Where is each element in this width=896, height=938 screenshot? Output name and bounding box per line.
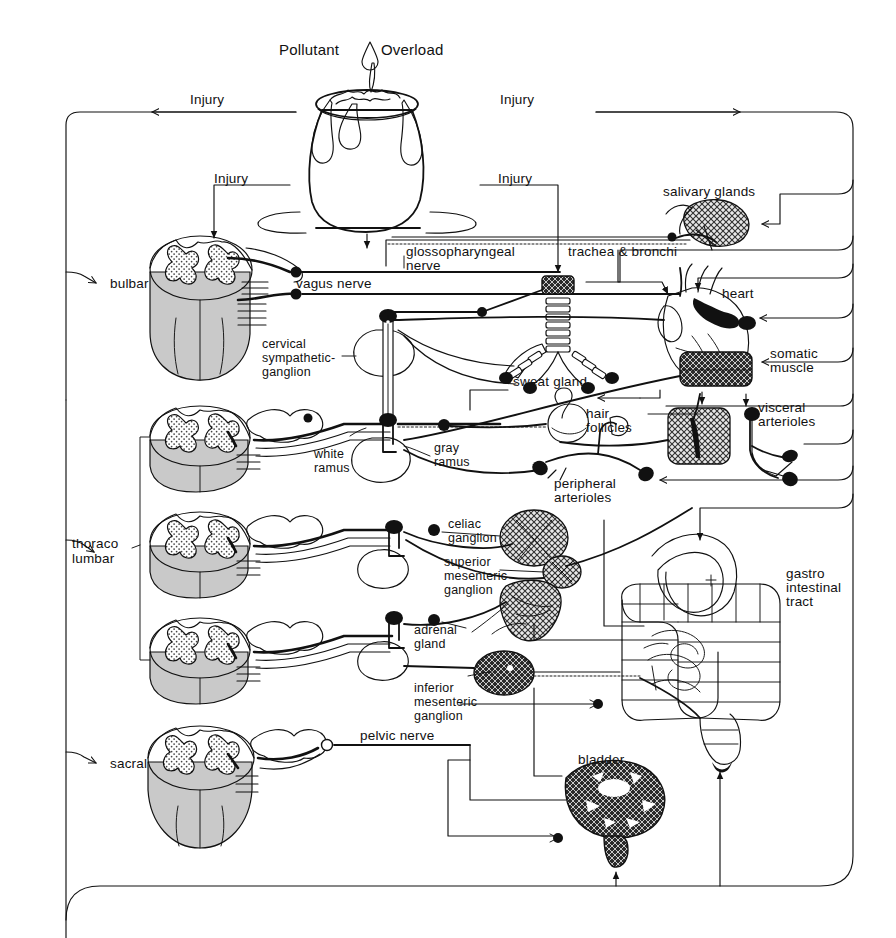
peripheral-arterioles-line2: arterioles [554, 490, 612, 505]
celiac-ganglion-line2: ganglion [448, 531, 497, 545]
thoraco-lumbar-line2: lumbar [72, 551, 115, 566]
inf-mesenteric-line2: mesenteric [414, 695, 477, 709]
gi-tract-line1: gastro [786, 566, 825, 581]
visceral-arterioles-line1: visceral [758, 400, 805, 415]
sup-mesenteric-line1: superior [444, 555, 491, 569]
heart-label: heart [722, 286, 754, 301]
pelvic-nerve-label: pelvic nerve [360, 728, 434, 743]
white-ramus-line2: ramus [314, 461, 350, 475]
trachea-bronchi-label: trachea & bronchi [568, 244, 677, 259]
bulbar-label: bulbar [110, 276, 149, 291]
injury-top-left-label: Injury [190, 92, 224, 107]
diagram-canvas: Injury Injury Pollutant Overload [0, 0, 896, 938]
inf-mesenteric-line3: ganglion [414, 709, 463, 723]
cervical-ganglion-line1: cervical [262, 337, 306, 351]
chain-ganglion-mid [379, 413, 397, 427]
injury-mid-right-label: Injury [498, 171, 532, 186]
autonomic-nervous-system-diagram: Injury Injury Pollutant Overload [0, 0, 896, 938]
gi-tract-line3: tract [786, 594, 813, 609]
injury-top-right-label: Injury [500, 92, 534, 107]
white-ramus-line1: white [313, 447, 344, 461]
thoraco-lumbar-line1: thoraco [72, 536, 118, 551]
sacral-label: sacral [110, 756, 147, 771]
salivary-glands-label: salivary glands [663, 184, 755, 199]
hair-follicles-line1: hair [586, 406, 610, 421]
title-word-2: Overload [381, 41, 443, 58]
glossopharyngeal-line1: glossopharyngeal [406, 244, 515, 259]
adrenal-gland-line2: gland [414, 637, 446, 651]
pelvic-ganglion [322, 740, 333, 751]
visceral-arterioles-line2: arterioles [758, 414, 816, 429]
injury-mid-left-label: Injury [214, 171, 248, 186]
vagus-nerve-label: vagus nerve [296, 276, 372, 291]
cervical-ganglion-line3: ganglion [262, 365, 311, 379]
gray-ramus-node [438, 419, 450, 431]
peripheral-arterioles-line1: peripheral [554, 476, 616, 491]
sweat-gland-label: sweat gland [513, 374, 587, 389]
bladder-label: bladder [578, 752, 625, 767]
celiac-ganglion-line1: celiac [448, 517, 481, 531]
gray-ramus-line1: gray [434, 441, 460, 455]
glossopharyngeal-line2: nerve [406, 258, 441, 273]
gi-tract-line2: intestinal [786, 580, 841, 595]
title-word-1: Pollutant [279, 41, 340, 58]
sup-mesenteric-line3: ganglion [444, 583, 493, 597]
inf-mesenteric-line1: inferior [414, 681, 454, 695]
cervical-ganglion-line2: sympathetic- [262, 351, 335, 365]
somatic-muscle-line1: somatic [770, 346, 818, 361]
